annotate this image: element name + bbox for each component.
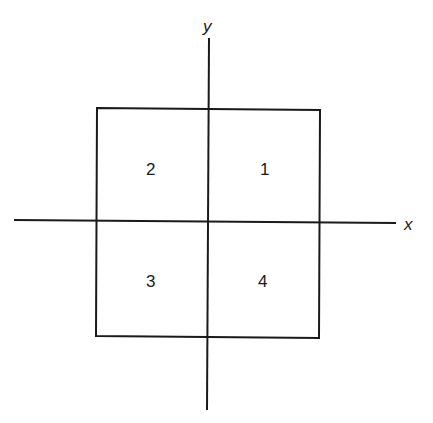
quadrant-diagram: y x 1 2 3 4 <box>0 0 433 423</box>
y-axis <box>207 38 209 410</box>
quadrant-2-label: 2 <box>146 160 155 179</box>
x-axis-label: x <box>403 215 413 234</box>
quadrant-4-label: 4 <box>258 272 267 291</box>
quadrant-3-label: 3 <box>146 272 155 291</box>
quadrant-1-label: 1 <box>260 160 269 179</box>
x-axis <box>14 220 396 223</box>
y-axis-label: y <box>202 17 213 36</box>
